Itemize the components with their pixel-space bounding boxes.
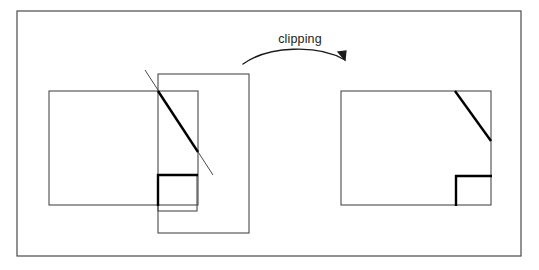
figure-background — [0, 0, 539, 270]
diagram-canvas: clipping — [0, 0, 539, 270]
clipping-figure: clipping — [0, 0, 539, 270]
clipping-label: clipping — [278, 32, 322, 46]
